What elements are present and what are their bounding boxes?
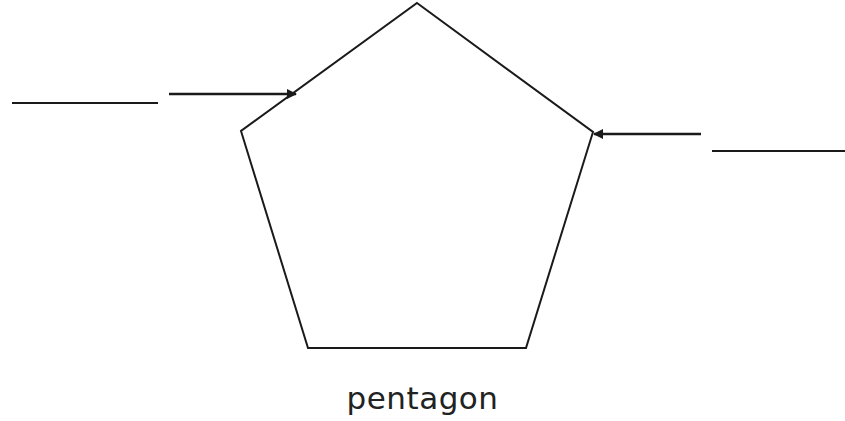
pentagon-shape (241, 3, 593, 348)
diagram-svg (0, 0, 845, 421)
pentagon-diagram: pentagon (0, 0, 845, 421)
shape-caption: pentagon (0, 380, 845, 416)
